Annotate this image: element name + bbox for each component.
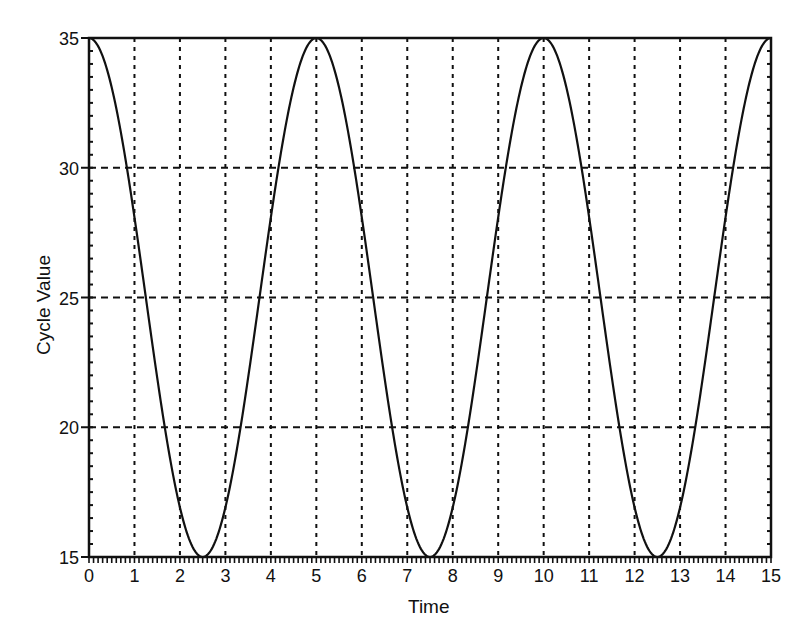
- x-tick-label: 12: [625, 566, 645, 586]
- x-tick-label: 15: [761, 566, 781, 586]
- x-tick-label: 2: [175, 566, 185, 586]
- y-axis-label: Cycle Value: [33, 255, 55, 355]
- x-tick-label: 4: [266, 566, 276, 586]
- x-axis-ticks: 0123456789101112131415: [84, 557, 781, 586]
- x-tick-label: 14: [716, 566, 736, 586]
- x-tick-label: 7: [402, 566, 412, 586]
- y-tick-label: 30: [59, 159, 79, 179]
- x-tick-label: 5: [311, 566, 321, 586]
- y-tick-label: 35: [59, 29, 79, 49]
- x-tick-label: 3: [220, 566, 230, 586]
- gridlines: [89, 38, 771, 557]
- x-tick-label: 9: [493, 566, 503, 586]
- x-tick-label: 11: [580, 566, 599, 586]
- x-tick-label: 6: [357, 566, 367, 586]
- x-tick-label: 8: [448, 566, 458, 586]
- line-chart: 0123456789101112131415 1520253035: [0, 0, 803, 630]
- y-tick-label: 20: [59, 418, 79, 438]
- y-tick-label: 25: [59, 289, 79, 309]
- y-tick-label: 15: [59, 548, 79, 568]
- x-tick-label: 13: [670, 566, 690, 586]
- x-tick-label: 10: [534, 566, 554, 586]
- x-tick-label: 1: [129, 566, 139, 586]
- x-axis-label: Time: [408, 596, 450, 618]
- x-tick-label: 0: [84, 566, 94, 586]
